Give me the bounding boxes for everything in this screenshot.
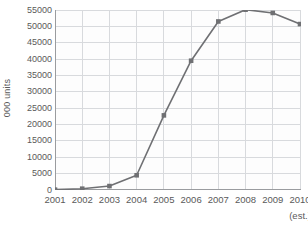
- data-point-2008: [243, 10, 248, 12]
- data-point-2007: [216, 19, 221, 24]
- data-point-2006: [189, 58, 194, 63]
- chart-plot-svg: [55, 10, 301, 190]
- x-tick-label-2008: 2008: [235, 194, 256, 205]
- vertical-gridlines: [55, 10, 300, 190]
- data-point-2004: [134, 173, 139, 178]
- y-tick-label-45000: 45000: [12, 38, 52, 47]
- y-tick-label-20000: 20000: [12, 120, 52, 129]
- y-tick-label-25000: 25000: [12, 104, 52, 113]
- y-tick-label-15000: 15000: [12, 136, 52, 145]
- x-tick-label-2010: 2010: [289, 194, 308, 205]
- y-tick-label-55000: 55000: [12, 6, 52, 15]
- x-tick-label-2007: 2007: [208, 194, 229, 205]
- y-tick-label-40000: 40000: [12, 55, 52, 64]
- y-tick-label-35000: 35000: [12, 71, 52, 80]
- x-tick-label-2009: 2009: [262, 194, 283, 205]
- data-point-2005: [162, 113, 167, 118]
- y-tick-label-30000: 30000: [12, 87, 52, 96]
- x-tick-label-2001: 2001: [44, 194, 65, 205]
- y-axis-title-label: 000 units: [2, 79, 12, 117]
- x-tick-label-2006: 2006: [181, 194, 202, 205]
- x-tick-label-2002: 2002: [72, 194, 93, 205]
- axis-lines: [55, 10, 301, 190]
- y-tick-label-5000: 5000: [12, 169, 52, 178]
- x-axis-tick-labels: 2001200220032004200520062007200820092010: [55, 194, 305, 210]
- x-tick-label-2005: 2005: [153, 194, 174, 205]
- line-chart-figure: 000 units 050001000015000200002500030000…: [0, 0, 308, 231]
- y-axis-tick-labels: 0500010000150002000025000300003500040000…: [12, 0, 52, 196]
- plot-area: [55, 10, 301, 190]
- data-point-2002: [80, 186, 85, 190]
- horizontal-gridlines: [55, 10, 301, 190]
- data-point-2009: [270, 11, 275, 16]
- x-tick-label-2003: 2003: [99, 194, 120, 205]
- x-axis-estimate-note: (est.): [289, 210, 308, 221]
- x-tick-label-2004: 2004: [126, 194, 147, 205]
- series-markers-units: [55, 10, 301, 190]
- data-point-2010: [298, 22, 301, 27]
- y-tick-label-10000: 10000: [12, 153, 52, 162]
- series-line-units: [55, 10, 300, 190]
- y-tick-label-50000: 50000: [12, 22, 52, 31]
- data-point-2003: [107, 184, 112, 189]
- data-point-2001: [55, 187, 57, 190]
